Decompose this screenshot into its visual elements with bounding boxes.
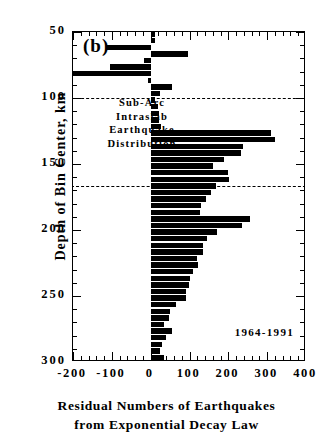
y-tick-label: 100 (22, 89, 66, 104)
axis-tick (296, 164, 304, 165)
axis-tick (182, 356, 183, 360)
axis-tick (259, 32, 260, 36)
axis-tick (73, 190, 77, 191)
axis-tick (228, 32, 229, 40)
axis-tick (300, 177, 304, 178)
caption-line-2: Intraslab (77, 110, 207, 124)
bar (151, 229, 218, 234)
axis-tick (190, 352, 191, 360)
axis-tick (112, 32, 113, 40)
axis-tick (73, 256, 77, 257)
axis-tick (300, 124, 304, 125)
bar (151, 315, 170, 320)
axis-tick (73, 58, 77, 59)
axis-tick (197, 32, 198, 36)
axis-tick (96, 356, 97, 360)
plot-caption: Sub-Arc Intraslab Earthquake Distributio… (77, 96, 207, 150)
axis-tick (73, 217, 77, 218)
bar (151, 249, 203, 254)
axis-tick (298, 32, 299, 36)
axis-tick (73, 151, 77, 152)
axis-tick (296, 32, 304, 33)
bar (151, 282, 190, 287)
axis-tick (252, 32, 253, 36)
axis-tick (298, 356, 299, 360)
axis-tick (73, 164, 81, 165)
axis-tick (275, 32, 276, 36)
axis-tick (73, 349, 77, 350)
bar (151, 322, 165, 327)
axis-tick (73, 322, 77, 323)
bar (151, 262, 198, 267)
bar (151, 157, 225, 162)
bar (151, 163, 213, 168)
axis-tick (73, 230, 81, 231)
y-tick-label: 250 (22, 287, 66, 302)
axis-tick (283, 356, 284, 360)
reference-line (72, 186, 305, 187)
axis-tick (166, 356, 167, 360)
axis-tick (300, 283, 304, 284)
axis-tick (213, 356, 214, 360)
axis-tick (300, 45, 304, 46)
bar (151, 236, 207, 241)
axis-tick (300, 243, 304, 244)
bar (151, 51, 188, 56)
axis-tick (73, 270, 77, 271)
x-axis-title-line1: Residual Numbers of Earthquakes (0, 396, 333, 415)
bar (151, 223, 242, 228)
plot-area: (b) Sub-Arc Intraslab Earthquake Distrib… (72, 31, 305, 361)
bar (151, 328, 172, 333)
axis-tick (300, 349, 304, 350)
x-axis-title-line2: from Exponential Decay Law (0, 415, 333, 434)
axis-tick (135, 32, 136, 36)
axis-tick (81, 32, 82, 36)
axis-tick (267, 32, 268, 40)
axis-tick (158, 356, 159, 360)
axis-tick (300, 85, 304, 86)
axis-tick (190, 32, 191, 40)
y-tick-label: 150 (22, 155, 66, 170)
axis-tick (151, 32, 152, 40)
axis-tick (244, 356, 245, 360)
axis-tick (73, 45, 77, 46)
bar (151, 309, 170, 314)
bar (151, 84, 172, 89)
axis-tick (73, 32, 74, 40)
axis-tick (73, 177, 77, 178)
axis-tick (158, 32, 159, 36)
axis-tick (73, 243, 77, 244)
bar (151, 216, 250, 221)
bar (151, 302, 176, 307)
panel-label: (b) (83, 35, 109, 57)
caption-line-1: Sub-Arc (77, 96, 207, 110)
bar (151, 348, 161, 353)
caption-line-4: Distribution (77, 137, 207, 151)
axis-tick (135, 356, 136, 360)
axis-tick (166, 32, 167, 36)
axis-tick (300, 309, 304, 310)
axis-tick (120, 356, 121, 360)
bar (151, 170, 229, 175)
axis-tick (300, 322, 304, 323)
x-axis-title: Residual Numbers of Earthquakes from Exp… (0, 396, 333, 434)
axis-tick (104, 356, 105, 360)
axis-tick (300, 217, 304, 218)
axis-tick (221, 356, 222, 360)
axis-tick (300, 256, 304, 257)
bar (151, 295, 186, 300)
axis-tick (143, 32, 144, 36)
axis-tick (236, 356, 237, 360)
axis-tick (73, 296, 81, 297)
bar (151, 243, 203, 248)
axis-tick (174, 356, 175, 360)
axis-tick (174, 32, 175, 36)
axis-tick (81, 356, 82, 360)
bar (151, 256, 198, 261)
axis-tick (300, 58, 304, 59)
figure-root: Depth of Bin Center, km (b) Sub-Arc Intr… (0, 0, 333, 437)
y-tick-label: 200 (22, 221, 66, 236)
bar (151, 342, 162, 347)
axis-tick (300, 151, 304, 152)
axis-tick (112, 352, 113, 360)
